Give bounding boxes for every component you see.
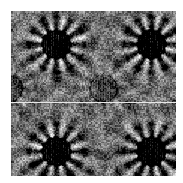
texture-plate xyxy=(11,11,176,176)
margin-bottom xyxy=(0,176,183,183)
texture-heatmap-canvas xyxy=(11,11,176,176)
margin-top xyxy=(0,0,183,11)
margin-left xyxy=(0,0,11,183)
figure-root xyxy=(0,0,183,183)
margin-right xyxy=(176,0,183,183)
